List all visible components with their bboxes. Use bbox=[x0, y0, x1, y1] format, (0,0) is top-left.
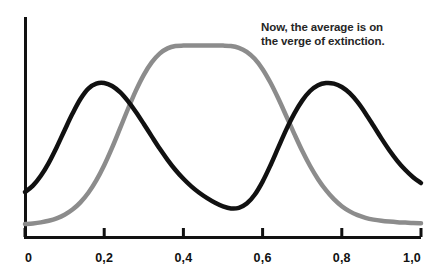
x-axis-tick-label: 0 bbox=[25, 251, 32, 265]
x-axis-tick-labels: 00,20,40,60,81,0 bbox=[25, 251, 421, 265]
chart-annotation: Now, the average is on the verge of exti… bbox=[261, 20, 431, 48]
x-axis-tick-label: 0,4 bbox=[174, 251, 192, 265]
x-axis-tick-label: 1,0 bbox=[403, 251, 421, 265]
unimodal-curve bbox=[25, 46, 421, 224]
bimodal-curve bbox=[25, 83, 421, 209]
figure-container: 00,20,40,60,81,0 Now, the average is on … bbox=[0, 0, 448, 277]
annotation-line-2: the verge of extinction. bbox=[261, 34, 431, 48]
x-axis-ticks bbox=[25, 228, 421, 237]
x-axis-tick-label: 0,6 bbox=[254, 251, 272, 265]
curves-group bbox=[25, 46, 421, 224]
annotation-line-1: Now, the average is on bbox=[261, 20, 431, 34]
x-axis-tick-label: 0,8 bbox=[333, 251, 351, 265]
x-axis-tick-label: 0,2 bbox=[95, 251, 113, 265]
